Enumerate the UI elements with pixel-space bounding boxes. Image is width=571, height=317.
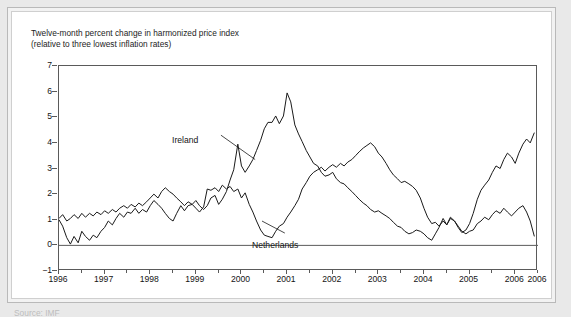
y-tick-label: 6 — [24, 86, 52, 96]
y-tick-mark — [52, 193, 57, 194]
x-tick-mark-major — [58, 270, 59, 274]
x-tick-label: 1997 — [94, 274, 113, 284]
x-tick-mark-minor — [446, 270, 447, 273]
x-tick-label: 2002 — [322, 274, 341, 284]
y-tick-mark — [52, 244, 57, 245]
x-tick-mark-major — [332, 270, 333, 274]
x-tick-mark-minor — [309, 270, 310, 273]
x-tick-mark-minor — [355, 270, 356, 273]
caption-line-2: (relative to three lowest inflation rate… — [31, 39, 171, 49]
y-tick-mark — [52, 65, 57, 66]
y-tick-label: 1 — [24, 214, 52, 224]
y-tick-label: 0 — [24, 239, 52, 249]
series-annotation-ireland: Ireland — [172, 135, 198, 145]
y-tick-mark — [52, 142, 57, 143]
x-tick-mark-minor — [537, 270, 538, 273]
series-line-netherlands — [59, 133, 534, 238]
leader-line-netherlands — [262, 221, 285, 233]
x-tick-label: 2000 — [231, 274, 250, 284]
y-tick-label: 2 — [24, 188, 52, 198]
x-tick-mark-minor — [263, 270, 264, 273]
x-tick-label: 1999 — [185, 274, 204, 284]
y-tick-label: 4 — [24, 137, 52, 147]
x-axis: 1996199719981999200020012002200320042005… — [20, 274, 548, 290]
y-tick-mark — [52, 219, 57, 220]
x-tick-mark-minor — [126, 270, 127, 273]
y-tick-mark — [52, 116, 57, 117]
x-tick-mark-major — [149, 270, 150, 274]
x-tick-mark-major — [104, 270, 105, 274]
x-tick-mark-major — [514, 270, 515, 274]
y-tick-mark — [52, 168, 57, 169]
x-tick-label: 2001 — [277, 274, 296, 284]
x-tick-label: 1998 — [140, 274, 159, 284]
caption-line-1: Twelve-month percent change in harmonize… — [31, 28, 239, 38]
x-tick-mark-major — [240, 270, 241, 274]
y-axis: −101234567 — [20, 65, 52, 270]
x-tick-label: 2006 — [505, 274, 524, 284]
figure-page: Twelve-month percent change in harmonize… — [0, 0, 571, 317]
y-tick-label: 7 — [24, 60, 52, 70]
x-tick-mark-minor — [491, 270, 492, 273]
x-tick-label: 1996 — [48, 274, 67, 284]
x-tick-mark-major — [195, 270, 196, 274]
x-tick-mark-minor — [172, 270, 173, 273]
leader-line-ireland — [221, 135, 255, 159]
x-tick-mark-major — [469, 270, 470, 274]
x-tick-mark-minor — [218, 270, 219, 273]
y-tick-label: 5 — [24, 111, 52, 121]
x-tick-label: 2006 — [527, 274, 546, 284]
footnote-partial: Source: IMF — [14, 308, 60, 317]
x-tick-mark-minor — [400, 270, 401, 273]
chart-caption: Twelve-month percent change in harmonize… — [31, 28, 361, 50]
chart-figure: Twelve-month percent change in harmonize… — [20, 18, 548, 294]
x-tick-mark-major — [286, 270, 287, 274]
y-tick-mark — [52, 270, 57, 271]
x-tick-label: 2004 — [413, 274, 432, 284]
x-tick-mark-major — [377, 270, 378, 274]
y-tick-mark — [52, 91, 57, 92]
x-tick-mark-major — [423, 270, 424, 274]
series-line-ireland — [59, 93, 534, 244]
y-tick-label: 3 — [24, 163, 52, 173]
x-tick-label: 2005 — [459, 274, 478, 284]
series-annotation-netherlands: Netherlands — [252, 240, 298, 250]
x-tick-mark-minor — [81, 270, 82, 273]
x-tick-label: 2003 — [368, 274, 387, 284]
series-canvas — [59, 66, 538, 271]
